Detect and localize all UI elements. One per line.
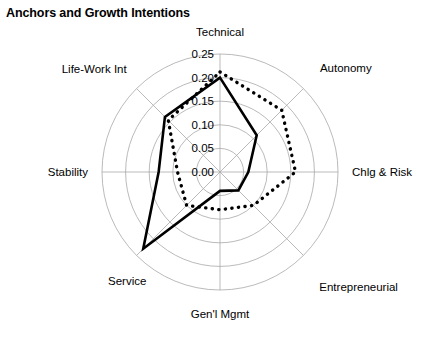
tick-label-0.20: 0.20 bbox=[192, 72, 214, 84]
axis-label-autonomy: Autonomy bbox=[320, 62, 372, 74]
spoke-autonomy bbox=[220, 89, 303, 172]
radial-tick-labels: 0.000.050.100.150.200.25 bbox=[192, 48, 214, 178]
tick-label-0.00: 0.00 bbox=[192, 166, 214, 178]
axis-label-life-work-int: Life-Work Int bbox=[62, 63, 128, 75]
axis-label-gen-l-mgmt: Gen'l Mgmt bbox=[191, 308, 250, 320]
spoke-entrepreneurial bbox=[220, 172, 303, 255]
series-layer bbox=[143, 72, 295, 249]
axis-category-labels: TechnicalAutonomyChlg & RiskEntrepreneur… bbox=[48, 26, 413, 320]
axis-label-entrepreneurial: Entrepreneurial bbox=[319, 281, 398, 293]
axis-spokes bbox=[102, 54, 338, 290]
series-dotted bbox=[168, 72, 295, 210]
axis-label-technical: Technical bbox=[196, 26, 244, 38]
tick-label-0.05: 0.05 bbox=[192, 142, 214, 154]
tick-label-0.10: 0.10 bbox=[192, 119, 214, 131]
axis-label-stability: Stability bbox=[48, 166, 89, 178]
axis-label-service: Service bbox=[108, 275, 146, 287]
radar-chart: 0.000.050.100.150.200.25 TechnicalAutono… bbox=[0, 0, 430, 338]
axis-label-chlg-risk: Chlg & Risk bbox=[352, 166, 412, 178]
tick-label-0.25: 0.25 bbox=[192, 48, 214, 60]
tick-label-0.15: 0.15 bbox=[192, 95, 214, 107]
radar-chart-canvas: 0.000.050.100.150.200.25 TechnicalAutono… bbox=[0, 0, 430, 338]
